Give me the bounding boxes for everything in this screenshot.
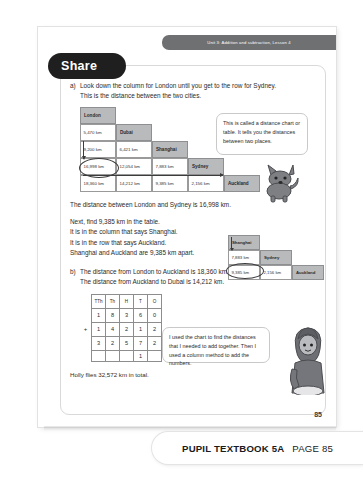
chart-cell-highlighted: 16,998 km <box>80 158 116 175</box>
pv-digit: 5 <box>120 336 134 350</box>
table-row: 3 2 5 7 2 <box>80 336 162 350</box>
speech-bubble-bottom: I used the chart to find the distances t… <box>162 327 270 363</box>
table-row-headers: TTh Th H T O <box>80 294 162 308</box>
step-line: Next, find 9,385 km in the table. <box>70 217 230 227</box>
chart-cell: 12,054 km <box>116 158 152 175</box>
chart-header-auckland: Auckland <box>224 175 260 192</box>
page-number: 85 <box>314 411 322 418</box>
pv-header-o: O <box>148 294 162 308</box>
mini-header-auckland: Auckland <box>292 265 324 280</box>
speech-bubble-top: This is called a distance chart or table… <box>216 113 308 155</box>
girl-character-illustration <box>286 323 332 395</box>
dog-character-illustration <box>259 161 303 205</box>
footer-page-label: PAGE 85 <box>292 443 333 454</box>
pv-carry <box>80 350 92 361</box>
pv-digit: 1 <box>92 322 106 336</box>
pv-digit: 7 <box>134 336 148 350</box>
pv-header-tth: TTh <box>92 294 106 308</box>
mini-cell: 2,156 km <box>260 265 292 280</box>
pv-digit: 1 <box>134 322 148 336</box>
place-value-table: TTh Th H T O 1 8 3 6 0 + 1 4 <box>80 294 162 362</box>
page-shadow <box>44 426 336 431</box>
chart-cell: 9,385 km <box>152 175 188 192</box>
part-a-line2: This is the distance between the two cit… <box>80 91 320 101</box>
pv-digit: 3 <box>120 308 134 322</box>
pv-carry: 1 <box>134 350 148 361</box>
mini-distance-chart: Shanghai 7,883 km Sydney 9,385 km 2,156 … <box>228 235 324 280</box>
row-arrow-icon <box>83 175 223 176</box>
chart-cell: 7,883 km <box>152 158 188 175</box>
footer-tab: PUPIL TEXTBOOK 5A PAGE 85 <box>152 432 363 464</box>
part-a-steps: Next, find 9,385 km in the table. It is … <box>70 217 230 258</box>
pv-header-t: T <box>134 294 148 308</box>
chart-cell: 18,360 km <box>80 175 116 192</box>
pv-carry <box>148 350 162 361</box>
textbook-page: Unit 3: Addition and subtraction, Lesson… <box>38 27 336 427</box>
pv-corner <box>80 294 92 308</box>
unit-banner: Unit 3: Addition and subtraction, Lesson… <box>162 35 336 50</box>
part-b-label: b) <box>70 267 80 287</box>
chart-cell: 6,421 km <box>116 141 152 158</box>
pv-carry <box>106 350 120 361</box>
pv-digit: 1 <box>92 308 106 322</box>
pv-digit: 0 <box>148 308 162 322</box>
step-line: It is in the column that says Shanghai. <box>70 227 230 237</box>
pv-digit: 4 <box>106 322 120 336</box>
pv-digit: 2 <box>148 336 162 350</box>
pv-digit: 6 <box>134 308 148 322</box>
chart-cell: 2,156 km <box>188 175 224 192</box>
pv-header-h: H <box>120 294 134 308</box>
pv-operator <box>80 336 92 350</box>
pv-digit: 3 <box>92 336 106 350</box>
table-row: + 1 4 2 1 2 <box>80 322 162 336</box>
part-b-total: Holly flies 32,572 km in total. <box>70 371 320 378</box>
step-line: It is in the row that says Auckland. <box>70 238 230 248</box>
part-a-label: a) <box>70 81 80 101</box>
section-title-share: Share <box>48 53 126 79</box>
pv-header-th: Th <box>106 294 120 308</box>
chart-row: 18,360 km 14,212 km 9,385 km 2,156 km Au… <box>80 175 262 192</box>
chart-row: 16,998 km 12,054 km 7,883 km Sydney <box>80 158 262 175</box>
pv-digit: 2 <box>106 336 120 350</box>
part-a-line1: Look down the column for London until yo… <box>80 81 320 91</box>
part-a-intro: a) Look down the column for London until… <box>70 81 320 101</box>
pv-carry <box>120 350 134 361</box>
step-line: Shanghai and Auckland are 9,385 km apart… <box>70 248 230 258</box>
mini-header-sydney: Sydney <box>260 250 292 265</box>
pv-carry <box>92 350 106 361</box>
pv-operator: + <box>80 322 92 336</box>
chart-header-sydney: Sydney <box>188 158 224 175</box>
chart-cell: 14,212 km <box>116 175 152 192</box>
pv-operator <box>80 308 92 322</box>
pv-digit: 8 <box>106 308 120 322</box>
chart-header-dubai: Dubai <box>116 124 152 141</box>
column-arrow-icon <box>83 141 84 159</box>
mini-row: Shanghai <box>228 235 324 250</box>
chart-header-shanghai: Shanghai <box>152 141 188 158</box>
mini-highlight-ellipse-icon <box>226 263 264 279</box>
chart-cell: 5,470 km <box>80 124 116 141</box>
pv-digit: 2 <box>120 322 134 336</box>
table-row-carry: 1 <box>80 350 162 361</box>
footer-book-title: PUPIL TEXTBOOK 5A <box>182 443 284 454</box>
mini-column-arrow-icon <box>231 237 232 250</box>
table-row: 1 8 3 6 0 <box>80 308 162 322</box>
chart-header-london: London <box>80 107 116 124</box>
pv-digit: 2 <box>148 322 162 336</box>
screenshot-root: Unit 3: Addition and subtraction, Lesson… <box>0 0 363 487</box>
